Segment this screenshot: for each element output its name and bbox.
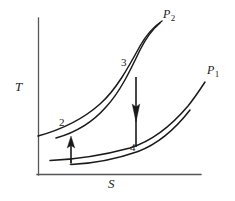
ts-diagram-figure: P2 P1 3 2 4 1 T S bbox=[0, 0, 235, 201]
y-axis-label: T bbox=[15, 80, 22, 93]
process-arrow-3-4 bbox=[132, 77, 140, 147]
state-point-label-2: 2 bbox=[59, 117, 65, 128]
curve-label-p2-text: P bbox=[163, 7, 170, 21]
state-point-label-4: 4 bbox=[130, 142, 136, 153]
p2-isobar-stroke-outer bbox=[38, 21, 162, 136]
curve-label-p1-text: P bbox=[207, 63, 214, 77]
curve-label-p2: P2 bbox=[163, 8, 175, 20]
ts-diagram-canvas bbox=[0, 0, 235, 201]
curve-label-p1-subscript: 1 bbox=[215, 69, 220, 79]
state-point-label-3: 3 bbox=[121, 57, 127, 68]
p1-isobar-stroke-outer bbox=[50, 82, 205, 161]
curve-label-p1: P1 bbox=[207, 64, 219, 76]
p1-isobar-curve bbox=[50, 82, 205, 165]
state-point-label-1: 1 bbox=[68, 156, 74, 167]
curve-label-p2-subscript: 2 bbox=[171, 13, 176, 23]
x-axis-label: S bbox=[108, 177, 115, 190]
p2-isobar-curve bbox=[38, 21, 162, 138]
